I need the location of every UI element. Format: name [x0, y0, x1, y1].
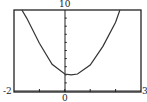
x-max-label: 3	[142, 87, 147, 96]
plot-frame	[14, 10, 141, 92]
function-curve	[22, 10, 120, 75]
origin-label: 0	[62, 94, 68, 102]
y-max-label: 10	[59, 0, 70, 9]
chart-plot	[0, 0, 147, 102]
x-min-label: -2	[3, 87, 12, 96]
